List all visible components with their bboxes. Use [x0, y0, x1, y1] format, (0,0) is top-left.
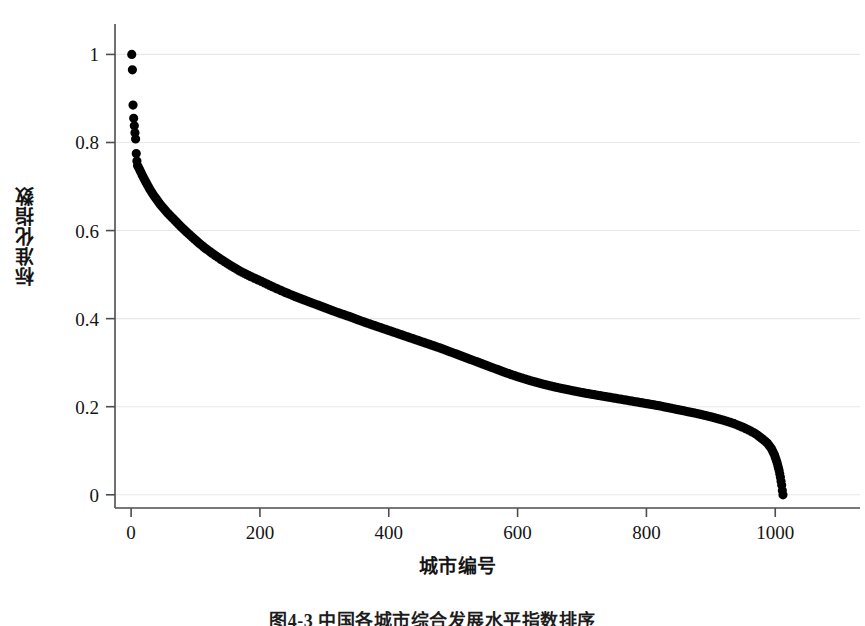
y-tick-label: 0.8 — [75, 132, 99, 153]
y-tick-label: 0.6 — [75, 221, 99, 242]
y-tick-label: 0 — [90, 485, 100, 506]
y-axis-label: 标准化指数 — [12, 186, 42, 286]
x-tick-label: 1000 — [756, 522, 794, 543]
scatter-plot: 00.20.40.60.8102004006008001000 — [0, 0, 865, 626]
y-tick-label: 0.2 — [75, 397, 99, 418]
y-tick-label: 0.4 — [75, 309, 99, 330]
x-tick-label: 0 — [126, 522, 136, 543]
figure-caption: 图4-3 中国各城市综合发展水平指数排序 — [0, 611, 865, 626]
figure-container: 00.20.40.60.8102004006008001000 标准化指数 城市… — [0, 0, 865, 626]
x-axis-label: 城市编号 — [0, 551, 865, 578]
x-tick-label: 800 — [632, 522, 661, 543]
x-tick-label: 600 — [503, 522, 532, 543]
x-tick-label: 400 — [375, 522, 404, 543]
y-tick-label: 1 — [90, 44, 100, 65]
x-tick-label: 200 — [246, 522, 275, 543]
